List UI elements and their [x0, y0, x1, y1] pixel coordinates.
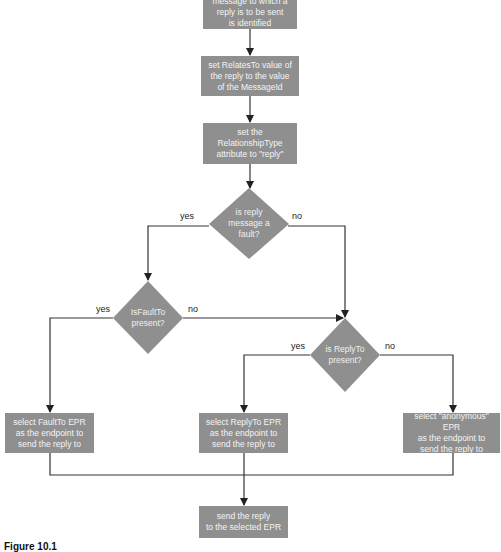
node-select-fault-to: select FaultTo EPR as the endpoint to se…: [5, 413, 94, 453]
node-relationship-type-label: set the RelationshipType attribute to "r…: [217, 127, 284, 160]
node-relates-to-label: set RelatesTo value of the reply to the …: [208, 60, 292, 93]
node-select-reply-to-label: select ReplyTo EPR as the endpoint to se…: [206, 417, 281, 450]
edge-label-reply-to-no: no: [385, 341, 395, 351]
node-relates-to: set RelatesTo value of the reply to the …: [201, 56, 299, 96]
node-select-reply-to: select ReplyTo EPR as the endpoint to se…: [199, 413, 288, 453]
figure-caption: Figure 10.1: [4, 541, 57, 552]
edge-label-fault-to-yes: yes: [96, 304, 110, 314]
edge-label-reply-to-yes: yes: [291, 341, 305, 351]
node-start: message to which a reply is to be sent i…: [203, 0, 297, 29]
node-relationship-type: set the RelationshipType attribute to "r…: [203, 123, 297, 164]
edge-label-fault-to-no: no: [188, 304, 198, 314]
edge-label-is-fault-no: no: [292, 211, 302, 221]
decision-reply-to-label: is ReplyTo present?: [313, 344, 377, 366]
node-send-reply-label: send the reply to the selected EPR: [206, 511, 281, 533]
node-select-fault-to-label: select FaultTo EPR as the endpoint to se…: [13, 417, 85, 450]
edge-label-is-fault-yes: yes: [180, 211, 194, 221]
node-start-label: message to which a reply is to be sent i…: [212, 0, 287, 29]
node-select-anonymous-label: select "anonymous" EPR as the endpoint t…: [406, 411, 497, 455]
decision-is-fault-label: is reply message a fault?: [214, 207, 284, 240]
node-select-anonymous: select "anonymous" EPR as the endpoint t…: [403, 413, 500, 453]
node-send-reply: send the reply to the selected EPR: [199, 506, 288, 538]
decision-fault-to-label: IsFaultTo present?: [118, 307, 178, 329]
